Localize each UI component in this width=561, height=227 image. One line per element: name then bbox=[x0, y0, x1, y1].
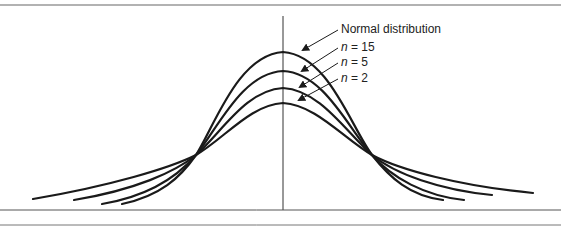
label-normal: Normal distribution bbox=[341, 22, 441, 36]
label-n15: n = 15 bbox=[341, 40, 375, 54]
label-n2: n = 2 bbox=[341, 71, 368, 85]
arrow-normal bbox=[303, 30, 338, 50]
label-n5: n = 5 bbox=[341, 55, 368, 69]
arrow-n15 bbox=[302, 48, 338, 71]
arrow-n5 bbox=[300, 63, 338, 87]
t-distribution-chart: Normal distribution n = 15 n = 5 n = 2 bbox=[0, 0, 561, 227]
